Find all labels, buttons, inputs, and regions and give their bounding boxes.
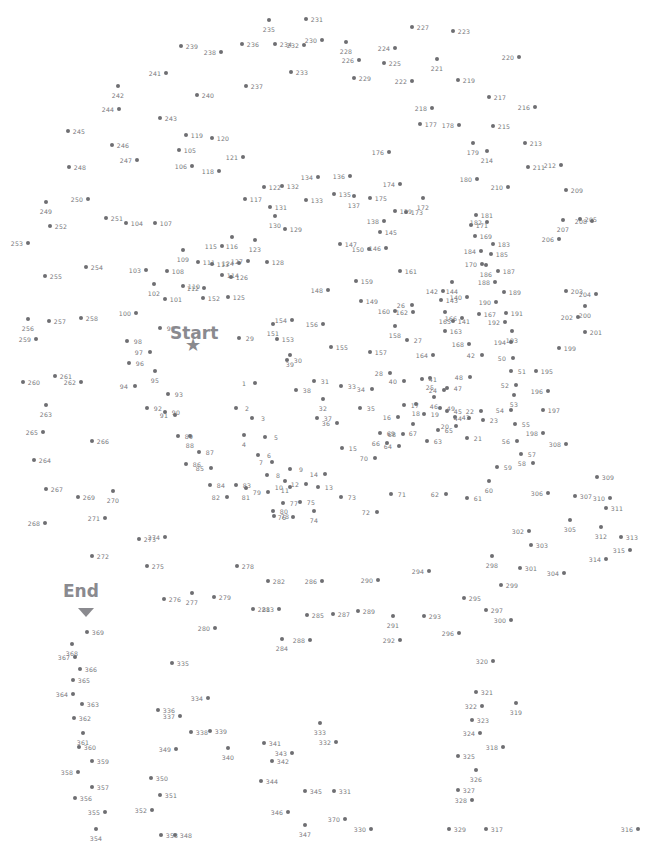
puzzle-dot-number: 179 — [467, 149, 479, 156]
puzzle-dot — [320, 38, 324, 42]
puzzle-dot — [511, 356, 515, 360]
puzzle-dot — [189, 730, 193, 734]
puzzle-dot — [343, 817, 347, 821]
puzzle-dot — [79, 380, 83, 384]
puzzle-dot — [344, 40, 348, 44]
puzzle-dot — [259, 779, 263, 783]
puzzle-dot-number: 182 — [470, 219, 482, 226]
puzzle-dot — [387, 150, 391, 154]
puzzle-dot — [478, 731, 482, 735]
puzzle-dot — [504, 311, 508, 315]
puzzle-dot-number: 238 — [204, 49, 216, 56]
puzzle-dot — [153, 369, 157, 373]
puzzle-dot-number: 260 — [28, 379, 40, 386]
puzzle-dot — [402, 379, 406, 383]
puzzle-dot-number: 277 — [186, 599, 198, 606]
puzzle-dot-number: 293 — [429, 613, 441, 620]
puzzle-dot-number: 257 — [54, 318, 66, 325]
puzzle-dot-number: 95 — [151, 377, 159, 384]
puzzle-dot — [77, 745, 81, 749]
puzzle-dot — [509, 369, 513, 373]
puzzle-dot-number: 197 — [548, 407, 560, 414]
puzzle-dot — [321, 322, 325, 326]
puzzle-dot-number: 362 — [79, 715, 91, 722]
puzzle-dot-number: 101 — [170, 296, 182, 303]
puzzle-dot-number: 130 — [269, 222, 281, 229]
puzzle-dot-number: 266 — [97, 438, 109, 445]
puzzle-dot-number: 28 — [375, 370, 383, 377]
puzzle-dot — [127, 361, 131, 365]
puzzle-dot — [404, 210, 408, 214]
puzzle-dot-number: 227 — [417, 24, 429, 31]
puzzle-dot — [438, 406, 442, 410]
puzzle-dot — [111, 489, 115, 493]
puzzle-dot-number: 14 — [310, 471, 318, 478]
puzzle-dot — [165, 269, 169, 273]
puzzle-dot-number: 329 — [454, 826, 466, 833]
puzzle-dot — [422, 614, 426, 618]
puzzle-dot — [304, 198, 308, 202]
puzzle-dot — [357, 58, 361, 62]
puzzle-dot-number: 109 — [177, 256, 189, 263]
puzzle-dot-number: 118 — [202, 168, 214, 175]
puzzle-dot-number: 86 — [193, 461, 201, 468]
puzzle-dot — [47, 319, 51, 323]
puzzle-dot-number: 316 — [621, 826, 633, 833]
puzzle-dot — [375, 510, 379, 514]
puzzle-dot-number: 291 — [387, 622, 399, 629]
puzzle-dot — [519, 452, 523, 456]
puzzle-dot — [515, 439, 519, 443]
puzzle-dot — [210, 262, 214, 266]
puzzle-dot — [477, 312, 481, 316]
puzzle-dot — [256, 453, 260, 457]
puzzle-dot-number: 42 — [467, 352, 475, 359]
puzzle-dot-number: 221 — [431, 65, 443, 72]
puzzle-dot — [462, 596, 466, 600]
puzzle-dot-number: 38 — [303, 387, 311, 394]
puzzle-dot-number: 181 — [481, 212, 493, 219]
puzzle-dot-number: 59 — [504, 464, 512, 471]
end-label: End — [63, 581, 99, 601]
puzzle-dot-number: 44 — [454, 415, 462, 422]
puzzle-dot-number: 252 — [55, 223, 67, 230]
puzzle-dot — [484, 827, 488, 831]
puzzle-dot — [212, 595, 216, 599]
puzzle-dot-number: 241 — [149, 70, 161, 77]
puzzle-dot — [410, 25, 414, 29]
puzzle-dot-number: 12 — [291, 481, 299, 488]
puzzle-dot — [190, 591, 194, 595]
puzzle-dot — [473, 234, 477, 238]
puzzle-dot — [460, 316, 464, 320]
puzzle-dot — [117, 107, 121, 111]
puzzle-dot-number: 69 — [387, 430, 395, 437]
puzzle-dot — [546, 389, 550, 393]
puzzle-dot-number: 315 — [613, 547, 625, 554]
puzzle-dot-number: 70 — [360, 455, 368, 462]
puzzle-dot-number: 143 — [446, 297, 458, 304]
puzzle-dot-number: 237 — [251, 83, 263, 90]
puzzle-dot — [229, 275, 233, 279]
puzzle-dot — [396, 415, 400, 419]
puzzle-dot — [152, 282, 156, 286]
puzzle-dot-number: 196 — [531, 388, 543, 395]
puzzle-dot — [480, 704, 484, 708]
puzzle-dot — [206, 696, 210, 700]
puzzle-dot-number: 289 — [363, 608, 375, 615]
puzzle-dot-number: 234 — [280, 41, 292, 48]
puzzle-dot-number: 226 — [342, 57, 354, 64]
puzzle-dot-number: 185 — [496, 251, 508, 258]
puzzle-dot-number: 166 — [445, 315, 457, 322]
puzzle-dot-number: 167 — [484, 311, 496, 318]
puzzle-dot — [230, 235, 234, 239]
puzzle-dot — [388, 371, 392, 375]
puzzle-dot-number: 357 — [97, 784, 109, 791]
puzzle-dot-number: 239 — [186, 43, 198, 50]
puzzle-dot-number: 361 — [77, 739, 89, 746]
puzzle-dot-number: 104 — [131, 220, 143, 227]
puzzle-dot-number: 317 — [491, 826, 503, 833]
puzzle-dot-number: 275 — [152, 563, 164, 570]
puzzle-dot-number: 265 — [26, 429, 38, 436]
puzzle-dot-number: 149 — [366, 298, 378, 305]
puzzle-dot-number: 98 — [134, 338, 142, 345]
puzzle-dot-number: 93 — [175, 391, 183, 398]
